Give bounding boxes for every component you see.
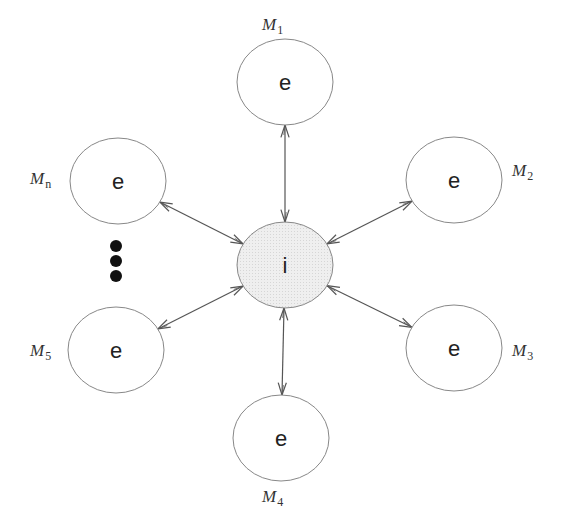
edge-line <box>282 308 284 395</box>
node-M3: e <box>406 305 502 391</box>
node-M1: e <box>237 39 333 125</box>
ellipsis-dots <box>110 240 122 282</box>
node-name-M1: M1 <box>261 15 283 37</box>
node-name-M2: M2 <box>511 161 533 183</box>
edge-line <box>327 201 412 244</box>
edge-center-M5 <box>158 286 243 329</box>
ellipsis-dot <box>110 240 122 252</box>
arrowhead-icon <box>285 125 289 137</box>
node-Mn: e <box>70 138 166 224</box>
node-name-M5: M5 <box>29 341 51 363</box>
edge-line <box>327 286 412 328</box>
edge-center-M4 <box>278 308 288 395</box>
node-label: e <box>448 336 460 361</box>
center-label: i <box>283 253 288 278</box>
star-diagram: eeeeeei M1M2M3M4M5Mn <box>0 0 562 523</box>
edge-line <box>160 202 243 244</box>
node-label: e <box>279 70 291 95</box>
node-label: e <box>448 168 460 193</box>
arrowhead-icon <box>278 383 282 395</box>
node-center: i <box>237 222 333 308</box>
edge-center-M1 <box>281 125 289 222</box>
nodes-layer: eeeeeei <box>68 39 502 481</box>
node-label: e <box>112 169 124 194</box>
edge-line <box>158 286 243 329</box>
node-name-M3: M3 <box>511 341 533 363</box>
node-M4: e <box>233 395 329 481</box>
node-label: e <box>275 426 287 451</box>
edge-center-M2 <box>327 201 412 244</box>
arrowhead-icon <box>284 308 288 320</box>
edge-center-Mn <box>160 202 243 244</box>
arrowhead-icon <box>281 210 285 222</box>
ellipsis-dot <box>110 270 122 282</box>
node-name-Mn: Mn <box>29 169 51 191</box>
node-M5: e <box>68 307 164 393</box>
ellipsis-dot <box>110 255 122 267</box>
edge-center-M3 <box>327 286 412 328</box>
node-label: e <box>110 338 122 363</box>
node-name-M4: M4 <box>261 487 283 509</box>
node-M2: e <box>406 137 502 223</box>
